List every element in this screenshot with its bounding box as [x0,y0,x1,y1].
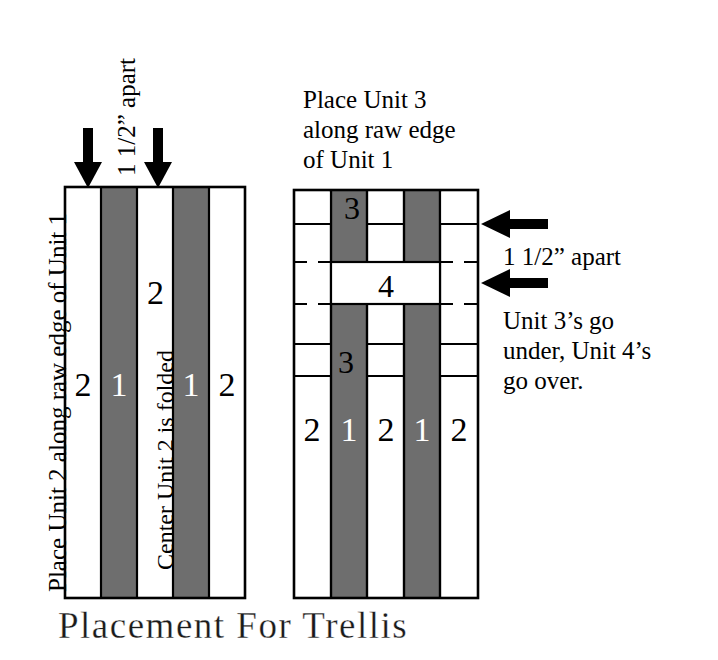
left-column-label-3: 1 [183,366,200,403]
left-panel-spacing-caption: 1 1/2” apart [113,58,141,176]
right-column-label-0: 2 [304,411,321,448]
right-panel-weave-caption-line-0: Unit 3’s go [503,306,651,336]
left-panel-side-caption: Place Unit 2 along raw edge of Unit 1 [44,213,72,592]
left-column-label-0: 2 [75,366,92,403]
right-panel-arrow-upper [481,210,548,238]
right-column-1b-gray [404,190,440,598]
left-panel-arrow-1 [74,128,102,188]
right-strip-label-3-lower: 3 [338,344,354,380]
right-strip-label-3-top: 3 [344,190,360,226]
left-column-label-1: 1 [111,366,128,403]
right-panel-weave-caption-line-2: go over. [503,366,651,396]
right-column-label-1: 1 [341,411,358,448]
right-panel-top-caption-line-2: of Unit 1 [303,145,456,175]
right-panel-weave-caption: Unit 3’s go under, Unit 4’s go over. [503,306,651,396]
right-column-label-3: 1 [414,411,431,448]
left-panel-arrow-2 [144,128,172,188]
right-panel-background [294,190,478,598]
right-strip-label-4: 4 [378,268,394,304]
left-column-label-2: 2 [147,274,164,312]
figure-title: Placement For Trellis [58,604,408,647]
left-panel-fold-caption: Center Unit 2 is folded [152,350,179,570]
right-column-label-2: 2 [378,411,395,448]
right-panel-top-caption-line-1: along raw edge [303,115,456,145]
right-column-label-4: 2 [451,411,468,448]
right-panel-weave-caption-line-1: under, Unit 4’s [503,336,651,366]
right-column-1a-gray [331,190,367,598]
right-panel-spacing-caption: 1 1/2” apart [503,243,621,271]
right-panel-arrow-lower [481,269,548,297]
left-column-label-4: 2 [219,366,236,403]
right-panel-top-caption-line-0: Place Unit 3 [303,85,456,115]
trellis-placement-diagram: 2 1 1 2 2 1 2 1 2 3 4 3 Place Unit 2 alo… [0,0,718,660]
right-panel-top-caption: Place Unit 3 along raw edge of Unit 1 [303,85,456,175]
